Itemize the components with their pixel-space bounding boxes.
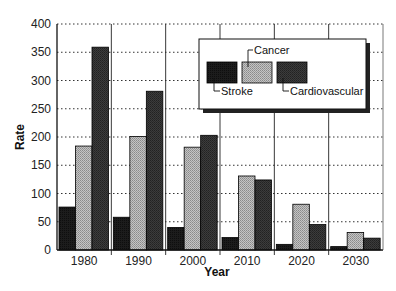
bar-cancer-2010 [239, 176, 256, 250]
y-tick-label: 350 [31, 45, 51, 59]
y-tick-label: 0 [44, 243, 51, 257]
x-tick-label: 1990 [125, 254, 152, 268]
bar-stroke-2020 [276, 244, 293, 250]
bar-stroke-2000 [168, 227, 185, 250]
bar-cancer-1990 [130, 136, 147, 250]
y-tick-label: 200 [31, 130, 51, 144]
bar-cardiovascular-2000 [201, 135, 218, 250]
bar-cancer-2020 [293, 204, 310, 250]
legend-label-cardiovascular: Cardiovascular [290, 85, 364, 97]
y-tick-label: 300 [31, 74, 51, 88]
bar-cancer-1980 [76, 146, 93, 250]
bar-stroke-1990 [113, 217, 130, 250]
x-tick-label: 2020 [288, 254, 315, 268]
bar-cardiovascular-1990 [146, 91, 163, 250]
y-tick-label: 100 [31, 187, 51, 201]
y-tick-label: 50 [38, 215, 52, 229]
x-axis-title: Year [204, 265, 230, 279]
bar-cancer-2030 [347, 232, 364, 250]
bar-cardiovascular-2030 [364, 238, 381, 250]
y-tick-label: 150 [31, 158, 51, 172]
x-tick-label: 2010 [234, 254, 261, 268]
legend-label-stroke: Stroke [221, 85, 253, 97]
bar-stroke-1980 [59, 207, 76, 250]
y-tick-label: 400 [31, 17, 51, 31]
bar-cancer-2000 [184, 147, 201, 250]
x-tick-label: 1980 [71, 254, 98, 268]
legend-swatch-cardiovascular [277, 62, 307, 83]
y-axis-title: Rate [13, 124, 27, 150]
bar-chart: 050100150200250300350400 198019902000201… [0, 0, 396, 291]
bar-stroke-2010 [222, 238, 239, 250]
bar-cardiovascular-1980 [92, 47, 109, 250]
legend: Stroke Cancer Cardiovascular [199, 39, 370, 113]
legend-label-cancer: Cancer [254, 44, 290, 56]
legend-swatch-stroke [207, 62, 237, 83]
bar-cardiovascular-2010 [255, 180, 272, 250]
x-tick-label: 2030 [342, 254, 369, 268]
bar-cardiovascular-2020 [309, 225, 326, 250]
y-axis-ticks: 050100150200250300350400 [31, 17, 51, 257]
x-tick-label: 2000 [179, 254, 206, 268]
legend-swatch-cancer [242, 62, 272, 83]
y-tick-label: 250 [31, 102, 51, 116]
